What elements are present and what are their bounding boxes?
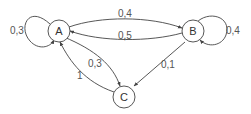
node-b-label: B <box>189 25 196 37</box>
markov-chain-diagram: A B C 0,3 0,4 0,5 0,4 0,3 0,1 1 <box>0 0 251 114</box>
edge-b-c <box>134 42 185 86</box>
label-c-a: 1 <box>77 70 83 81</box>
label-a-a: 0,3 <box>10 25 24 36</box>
node-a-label: A <box>55 25 63 37</box>
node-b: B <box>182 20 204 42</box>
label-b-a: 0,5 <box>118 30 132 41</box>
node-c: C <box>113 86 135 108</box>
edge-a-b <box>69 19 182 28</box>
node-c-label: C <box>120 91 128 103</box>
node-a: A <box>48 20 70 42</box>
edge-c-a <box>60 42 114 92</box>
label-b-c: 0,1 <box>161 59 175 70</box>
label-b-b: 0,4 <box>226 25 240 36</box>
label-a-c: 0,3 <box>88 58 102 69</box>
label-a-b: 0,4 <box>118 8 132 19</box>
